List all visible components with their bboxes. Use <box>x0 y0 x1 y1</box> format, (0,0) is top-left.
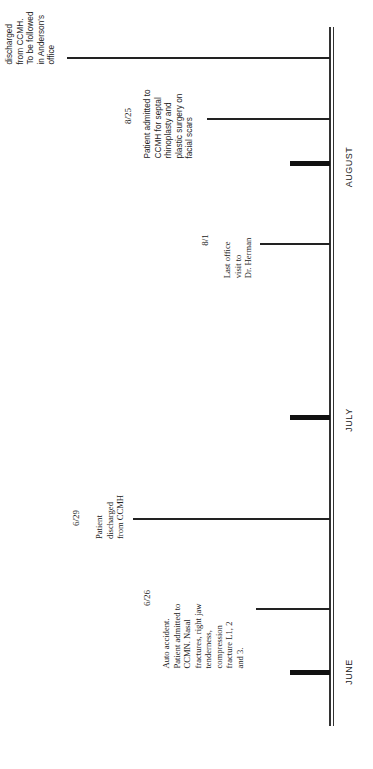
event-date-8-1: 8/1 <box>200 234 210 246</box>
month-label-august: AUGUST <box>344 147 354 188</box>
event-date-8-25: 8/25 <box>123 108 133 124</box>
event-note-8-1: Last office visit to Dr. Herman <box>222 238 254 279</box>
event-note-6-29: Patient discharged from CCMH <box>94 495 126 539</box>
event-line-6-26 <box>256 608 330 610</box>
event-line-discharge-final <box>67 57 330 59</box>
month-tick-july <box>290 415 330 420</box>
month-tick-june <box>290 670 330 675</box>
timeline-axis-left <box>329 27 331 726</box>
event-line-6-29 <box>133 518 330 520</box>
timeline-axis-right <box>333 27 335 726</box>
event-note-6-26: Auto accident. Patient admitted to CCMN.… <box>161 603 245 668</box>
event-line-8-25 <box>207 118 330 120</box>
month-label-june: JUNE <box>344 659 354 685</box>
event-date-6-29: 6/29 <box>71 510 81 526</box>
month-tick-august <box>290 161 330 166</box>
event-note-discharge-final: discharged from CCMH. To be followed in … <box>4 11 57 64</box>
event-note-8-25: Patient admitted to CCMH for septal rhin… <box>142 89 195 158</box>
month-label-july: JULY <box>344 408 354 431</box>
event-line-8-1 <box>260 243 330 245</box>
event-date-6-26: 6/26 <box>142 590 152 606</box>
